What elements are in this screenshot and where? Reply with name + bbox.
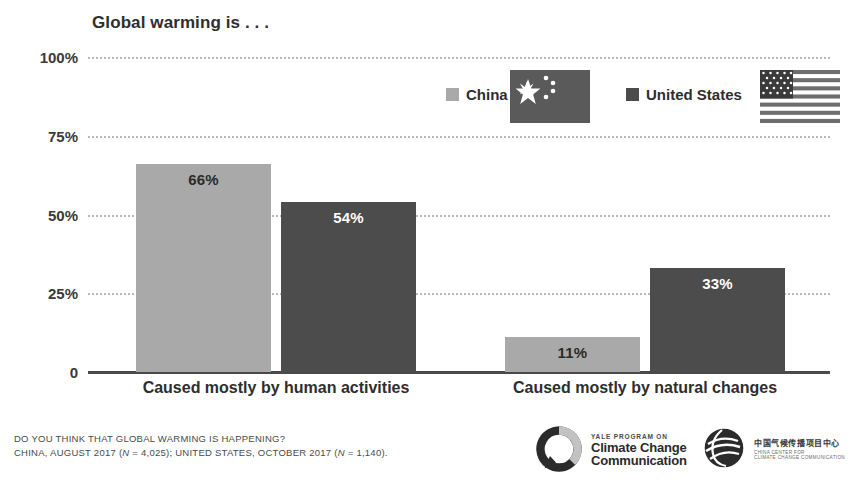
bar-value-label: 11%	[505, 344, 640, 361]
chart-legend: China United States	[440, 68, 860, 124]
x-axis-group-label: Caused mostly by natural changes	[505, 379, 785, 397]
legend-swatch-united-states	[626, 88, 639, 101]
yale-mark-icon	[536, 426, 582, 476]
legend-item-china[interactable]: China	[446, 86, 508, 103]
logo-china-c4: 中国气候传播项目中心 CHINA CENTER FOR CLIMATE CHAN…	[702, 426, 845, 474]
footer-note: DO YOU THINK THAT GLOBAL WARMING IS HAPP…	[14, 432, 388, 460]
c4-chinese-name: 中国气候传播项目中心	[754, 440, 845, 449]
gridline	[88, 57, 830, 59]
y-axis-tick: 50%	[48, 206, 78, 223]
logo-row: YALE PROGRAM ON Climate Change Communica…	[536, 424, 856, 482]
bar-united-states-1[interactable]: 33%	[650, 268, 785, 372]
bar-value-label: 33%	[650, 275, 785, 292]
legend-label-united-states: United States	[646, 86, 742, 103]
bar-china-0[interactable]: 66%	[136, 164, 271, 372]
flag-china-icon	[510, 70, 590, 123]
y-axis: 100%75%50%25%0	[0, 0, 78, 380]
chart-canvas: Global warming is . . . 100%75%50%25%0 C…	[0, 0, 864, 500]
yale-line-2: Communication	[591, 454, 687, 467]
c4-sub-line-2: CLIMATE CHANGE COMMUNICATION	[754, 455, 845, 460]
y-axis-tick: 0	[70, 364, 78, 381]
bar-china-1[interactable]: 11%	[505, 337, 640, 372]
logo-yale-ccc: YALE PROGRAM ON Climate Change Communica…	[536, 426, 687, 476]
footer-source: CHINA, AUGUST 2017 (N = 4,025); UNITED S…	[14, 446, 388, 460]
bar-united-states-0[interactable]: 54%	[281, 202, 416, 372]
chart-title: Global warming is . . .	[92, 13, 269, 33]
legend-swatch-china	[446, 88, 459, 101]
legend-item-united-states[interactable]: United States	[626, 86, 742, 103]
bar-value-label: 54%	[281, 209, 416, 226]
y-axis-tick: 100%	[40, 49, 78, 66]
yale-line-1: Climate Change	[591, 441, 687, 454]
y-axis-tick: 25%	[48, 285, 78, 302]
footer-question: DO YOU THINK THAT GLOBAL WARMING IS HAPP…	[14, 432, 388, 446]
gridline	[88, 136, 830, 138]
x-axis-group-label: Caused mostly by human activities	[136, 379, 416, 397]
bar-value-label: 66%	[136, 171, 271, 188]
y-axis-tick: 75%	[48, 127, 78, 144]
c4-mark-icon	[702, 426, 746, 474]
flag-united-states-icon	[760, 70, 840, 123]
legend-label-china: China	[466, 86, 508, 103]
